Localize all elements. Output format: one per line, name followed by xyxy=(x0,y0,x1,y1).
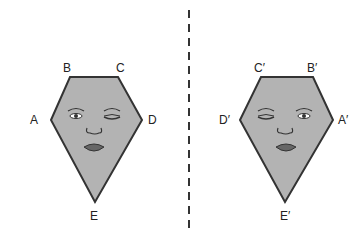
vertex-label-a-prime: A′ xyxy=(338,113,349,127)
vertex-label-c-prime: C′ xyxy=(254,61,266,75)
original-pentagon: A B C D E xyxy=(30,61,157,223)
vertex-label-a: A xyxy=(30,113,38,127)
vertex-label-c: C xyxy=(116,61,125,75)
vertex-label-b: B xyxy=(63,61,71,75)
vertex-label-d-prime: D′ xyxy=(219,113,231,127)
vertex-label-d: D xyxy=(148,113,157,127)
vertex-label-e-prime: E′ xyxy=(280,209,291,223)
vertex-label-b-prime: B′ xyxy=(307,61,318,75)
image-pentagon: D′ C′ B′ A′ E′ xyxy=(219,61,349,223)
reflection-diagram: A B C D E D′ C′ B′ A′ E′ xyxy=(0,0,361,245)
vertex-label-e: E xyxy=(90,209,98,223)
